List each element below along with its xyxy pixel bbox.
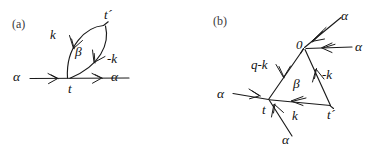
label-b-alpha-bottom: α [282, 133, 289, 147]
label-a-k: k [50, 28, 56, 41]
label-a-t: t [68, 82, 72, 95]
label-a-alpha-right: α [111, 70, 118, 84]
label-b-alpha-left: α [217, 87, 224, 101]
tick-a-t-prime [104, 22, 108, 25]
line-b-alpha-bottom [270, 101, 293, 137]
arrowhead-b-q-minus-k-2 [279, 67, 284, 78]
figure-root: (a) t´ k β -k α α t (b) α 0 α q-k -k β α… [0, 0, 375, 150]
panel-a-label: (a) [12, 18, 25, 30]
label-b-beta: β [293, 77, 300, 91]
label-b-alpha-right: α [355, 40, 362, 54]
label-b-k: k [292, 109, 298, 122]
arrowhead-b-alpha-top [312, 28, 327, 42]
panel-b-label: (b) [213, 15, 227, 27]
arrowhead-b-alpha-bottom [272, 104, 284, 117]
label-a-beta: β [75, 45, 82, 59]
line-b-alpha-right [306, 47, 352, 49]
label-a-alpha-left: α [13, 70, 20, 84]
label-b-t: t [262, 103, 266, 116]
arrowhead-b-alpha-left-2 [252, 91, 261, 96]
label-a-t-prime: t´ [104, 8, 112, 21]
label-b-t-prime: t´ [327, 108, 335, 121]
line-b-alpha-top [305, 18, 342, 48]
diagram-canvas [0, 0, 375, 150]
label-b-minus-k: -k [322, 68, 332, 81]
label-a-minus-k: -k [107, 52, 117, 65]
label-b-alpha-top: α [341, 9, 348, 23]
label-b-q-minus-k: q-k [251, 58, 268, 71]
label-b-zero: 0 [296, 38, 303, 51]
